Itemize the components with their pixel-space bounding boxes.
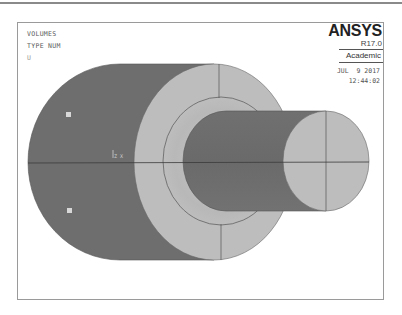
triad-label: Z X xyxy=(114,153,123,159)
volume-marker-1 xyxy=(66,112,71,117)
volume-marker-2 xyxy=(67,208,72,213)
shaft-end-face[interactable] xyxy=(283,111,369,211)
model-viewport[interactable]: Z X xyxy=(0,0,402,315)
